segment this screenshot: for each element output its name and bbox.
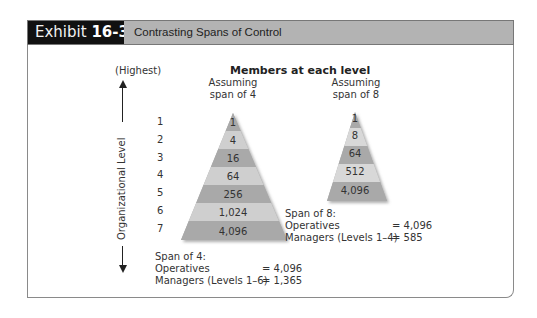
exhibit-word: Exhibit	[35, 23, 87, 41]
span4-level-6-value: 1,024	[183, 207, 283, 218]
span4-operatives-label: Operatives	[155, 263, 262, 275]
span4-operatives-value: = 4,096	[262, 263, 302, 275]
span4-level-4-value: 64	[183, 171, 283, 182]
level-1: 1	[157, 116, 163, 127]
span8-level-5-value: 4,096	[305, 185, 405, 196]
span4-caption-line1: Assuming	[198, 77, 268, 89]
level-7: 7	[157, 223, 163, 234]
span4-summary-title: Span of 4:	[155, 251, 302, 263]
span4-level-1-value: 1	[183, 117, 283, 128]
span8-managers-label: Managers (Levels 1–4)	[285, 232, 392, 244]
span8-operatives-label: Operatives	[285, 220, 392, 232]
members-title: Members at each level	[230, 64, 370, 77]
span8-summary-title: Span of 8:	[285, 208, 432, 220]
span4-caption-line2: span of 4	[198, 89, 268, 101]
span8-level-3-value: 64	[305, 148, 405, 159]
level-3: 3	[157, 152, 163, 163]
span8-caption-line2: span of 8	[321, 89, 391, 101]
span4-summary: Span of 4: Operatives = 4,096 Managers (…	[155, 251, 302, 287]
arrow-down-icon	[119, 265, 127, 273]
axis-line-top	[122, 86, 123, 122]
span4-level-3-value: 16	[183, 153, 283, 164]
level-6: 6	[157, 205, 163, 216]
arrow-up-icon	[119, 80, 127, 88]
exhibit-label: Exhibit 16-3	[28, 21, 124, 44]
span8-caption: Assuming span of 8	[321, 77, 391, 101]
span8-summary: Span of 8: Operatives = 4,096 Managers (…	[285, 208, 432, 244]
span8-operatives-value: = 4,096	[392, 220, 432, 232]
span4-managers-label: Managers (Levels 1–6)	[155, 275, 262, 287]
highest-label: (Highest)	[115, 65, 161, 76]
level-2: 2	[157, 134, 163, 145]
span4-caption: Assuming span of 4	[198, 77, 268, 101]
span8-level-1-value: 1	[305, 113, 405, 124]
organizational-level-label: Organizational Level	[116, 138, 127, 240]
span8-level-4-value: 512	[305, 166, 405, 177]
span8-level-2-value: 8	[305, 130, 405, 141]
level-4: 4	[157, 169, 163, 180]
span8-managers-value: = 585	[392, 232, 423, 244]
exhibit-title: Contrasting Spans of Control	[124, 21, 513, 44]
span4-managers-value: = 1,365	[262, 275, 302, 287]
span8-caption-line1: Assuming	[321, 77, 391, 89]
level-5: 5	[157, 187, 163, 198]
span4-level-5-value: 256	[183, 189, 283, 200]
span4-level-2-value: 4	[183, 135, 283, 146]
exhibit-header: Exhibit 16-3 Contrasting Spans of Contro…	[27, 20, 514, 45]
span4-level-7-value: 4,096	[183, 226, 283, 237]
